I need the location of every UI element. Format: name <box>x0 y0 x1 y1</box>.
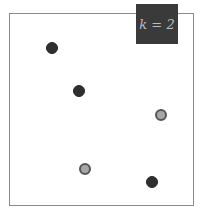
grey-point-4 <box>79 163 91 175</box>
dark-point-1 <box>46 42 58 54</box>
dark-point-2 <box>73 85 85 97</box>
grey-point-3 <box>155 109 167 121</box>
dark-point-5 <box>146 176 158 188</box>
k-label: k = 2 <box>136 4 178 44</box>
